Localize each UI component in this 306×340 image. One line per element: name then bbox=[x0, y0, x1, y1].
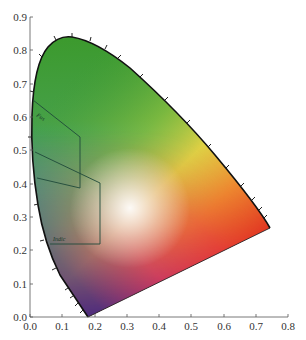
x-tick-label: 0.5 bbox=[184, 320, 198, 332]
x-tick-label: 0.1 bbox=[55, 320, 69, 332]
x-tick-label: 0.2 bbox=[88, 320, 102, 332]
y-tick-labels: 0.0 0.1 0.2 0.3 0.4 0.5 0.6 0.7 0.8 0.9 bbox=[13, 11, 27, 323]
y-tick-label: 0.1 bbox=[13, 278, 27, 290]
y-tick-label: 0.7 bbox=[13, 78, 27, 90]
y-tick-label: 0.0 bbox=[13, 311, 27, 323]
x-tick-labels: 0.0 0.1 0.2 0.3 0.4 0.5 0.6 0.7 0.8 bbox=[23, 320, 295, 332]
x-tick-label: 0.3 bbox=[120, 320, 134, 332]
y-tick-label: 0.4 bbox=[13, 178, 27, 190]
y-tick-label: 0.8 bbox=[13, 44, 27, 56]
y-tick-label: 0.9 bbox=[13, 11, 27, 23]
y-tick-label: 0.3 bbox=[13, 211, 27, 223]
region-indic-label: Indic bbox=[52, 236, 66, 242]
y-tick-label: 0.6 bbox=[13, 111, 27, 123]
x-axis-ticks bbox=[30, 314, 288, 317]
chromaticity-chart: Fus Indic 0.0 0.1 0.2 0.3 0.4 bbox=[0, 0, 306, 340]
y-tick-label: 0.5 bbox=[13, 144, 27, 156]
x-tick-label: 0.4 bbox=[152, 320, 166, 332]
x-tick-label: 0.6 bbox=[217, 320, 231, 332]
y-tick-label: 0.2 bbox=[13, 244, 27, 256]
x-tick-label: 0.8 bbox=[281, 320, 295, 332]
x-tick-label: 0.7 bbox=[249, 320, 263, 332]
